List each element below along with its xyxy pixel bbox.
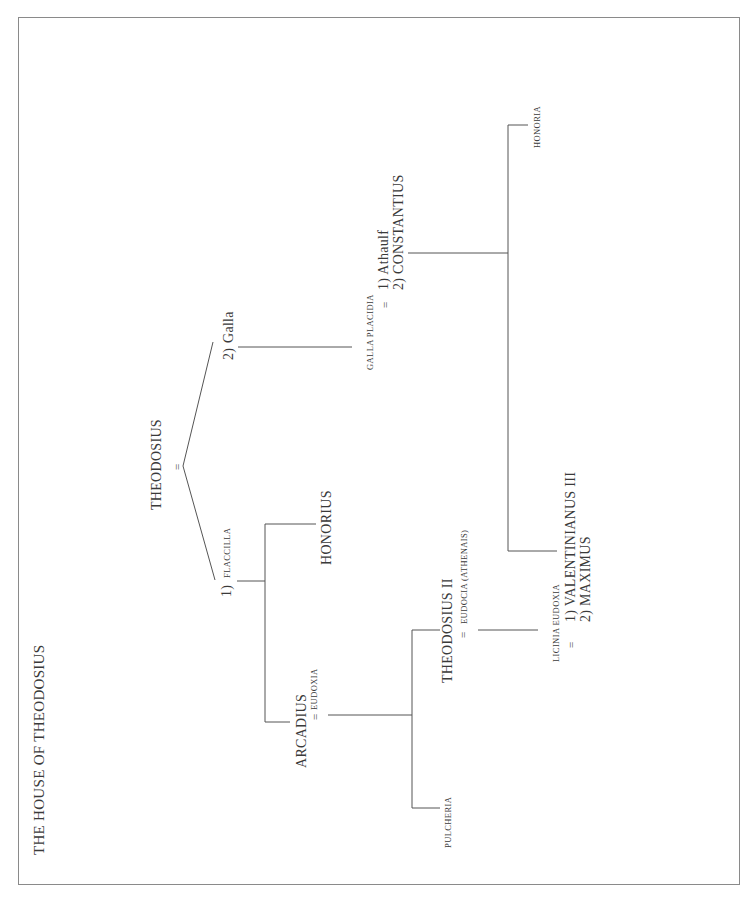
person-eudoxia: EUDOXIA [310, 668, 319, 710]
galla-number: 2) [222, 348, 236, 360]
person-licinia-eudoxia: LICINIA EUDOXIA [552, 584, 561, 662]
marriage-symbol: = [310, 714, 321, 720]
person-maximus: 2) MAXIMUS [579, 536, 593, 622]
person-flaccilla: FLACCILLA [223, 528, 232, 578]
person-athaulf: 1) Athaulf [377, 230, 391, 290]
marriage-symbol: = [172, 464, 183, 470]
person-theodosius: THEODOSIUS [150, 419, 164, 510]
person-theodosius-ii: THEODOSIUS II [441, 578, 455, 683]
person-honoria: HONORIA [533, 106, 542, 148]
marriage-symbol: = [458, 632, 469, 638]
person-eudocia: EUDOCIA (ATHENAIS) [460, 530, 469, 624]
person-valentinianus-iii: 1) VALENTINIANUS III [564, 472, 578, 622]
marriage-symbol: = [566, 642, 577, 648]
person-arcadius: ARCADIUS [295, 694, 309, 768]
person-galla-placidia: GALLA PLACIDIA [366, 294, 375, 370]
person-honorius: HONORIUS [320, 490, 334, 565]
flaccilla-number: 1) [220, 585, 234, 597]
person-constantius: 2) CONSTANTIUS [392, 175, 406, 290]
diagram-title: THE HOUSE OF THEODOSIUS [32, 645, 47, 855]
person-galla: Galla [222, 311, 236, 343]
marriage-symbol: = [380, 302, 391, 308]
family-tree-lines [0, 0, 753, 908]
theodosius-marriage-lines [183, 342, 215, 580]
person-pulcheria: PULCHERIA [444, 797, 453, 848]
